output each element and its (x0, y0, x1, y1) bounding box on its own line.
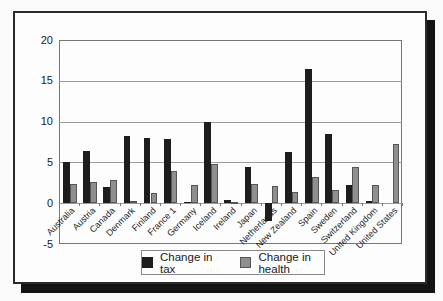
health-bar-japan (251, 184, 258, 203)
figure-frame: 20151050-5 AustraliaAustriaCanadaDenmark… (13, 11, 427, 284)
health-bar-germany (191, 185, 198, 203)
y-tick-label-0: 0 (21, 198, 53, 209)
health-bar-netherlands (272, 186, 279, 203)
zero-axis-tick (382, 203, 383, 206)
health-bar-united-states (393, 144, 400, 203)
zero-axis-tick (120, 203, 121, 206)
tax-bar-canada (103, 187, 110, 203)
gridline-y-5 (59, 162, 402, 163)
tax-bar-germany (184, 202, 191, 204)
gridline-y-15 (59, 81, 402, 82)
zero-axis-tick (301, 203, 302, 206)
zero-axis-tick (402, 203, 403, 206)
health-bar-switzerland (352, 167, 359, 203)
health-bar-iceland (211, 164, 218, 203)
zero-axis-tick (321, 203, 322, 206)
tax-bar-switzerland (346, 185, 353, 203)
tax-bar-austria (83, 151, 90, 203)
tax-bar-iceland (204, 122, 211, 203)
tax-bar-australia (63, 162, 70, 204)
tax-bar-ireland (224, 200, 231, 203)
tax-bar-united-kingdom (366, 201, 373, 203)
zero-axis-tick (261, 203, 262, 206)
health-bar-austria (90, 182, 97, 203)
health-bar-ireland (231, 202, 238, 204)
y-tick-label-10: 10 (21, 116, 53, 127)
zero-axis-tick (160, 203, 161, 206)
zero-axis-tick (79, 203, 80, 206)
zero-axis-tick (342, 203, 343, 206)
zero-axis-tick (59, 203, 60, 206)
tax-bar-finland (144, 138, 151, 203)
y-tick-label-15: 15 (21, 75, 53, 86)
y-tick-label--5: -5 (21, 239, 53, 250)
health-bar-france-1 (171, 171, 178, 203)
health-bar-finland (151, 193, 158, 203)
zero-axis-tick (200, 203, 201, 206)
legend-swatch-tax (142, 257, 153, 268)
zero-axis-tick (180, 203, 181, 206)
tax-bar-japan (245, 167, 252, 203)
y-tick-label-20: 20 (21, 35, 53, 46)
zero-axis-tick (362, 203, 363, 206)
health-bar-sweden (332, 190, 339, 203)
zero-axis-tick (220, 203, 221, 206)
gridline-y-10 (59, 122, 402, 123)
zero-axis-tick (140, 203, 141, 206)
health-bar-australia (70, 184, 77, 204)
tax-bar-spain (305, 69, 312, 203)
health-bar-united-kingdom (372, 185, 379, 203)
tax-bar-new-zealand (285, 152, 292, 203)
y-tick-label-5: 5 (21, 157, 53, 168)
legend-label-tax: Change in tax (160, 251, 213, 275)
zero-axis-tick (281, 203, 282, 206)
zero-axis-tick (99, 203, 100, 206)
health-bar-denmark (130, 201, 137, 203)
legend-swatch-health (240, 257, 251, 268)
tax-bar-sweden (325, 134, 332, 203)
zero-axis-tick (241, 203, 242, 206)
legend: Change in tax Change in health (141, 250, 325, 275)
health-bar-new-zealand (292, 192, 299, 203)
tax-bar-france-1 (164, 139, 171, 204)
legend-label-health: Change in health (258, 251, 324, 275)
health-bar-canada (110, 180, 117, 203)
health-bar-spain (312, 177, 319, 203)
tax-bar-denmark (124, 136, 131, 203)
